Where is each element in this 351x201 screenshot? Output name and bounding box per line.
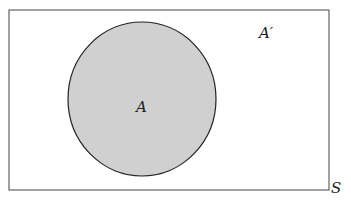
- set-a-label: A: [134, 98, 147, 116]
- universe-label: S: [331, 179, 341, 197]
- complement-label: A′: [257, 24, 274, 42]
- venn-diagram: A A′ S: [0, 0, 351, 201]
